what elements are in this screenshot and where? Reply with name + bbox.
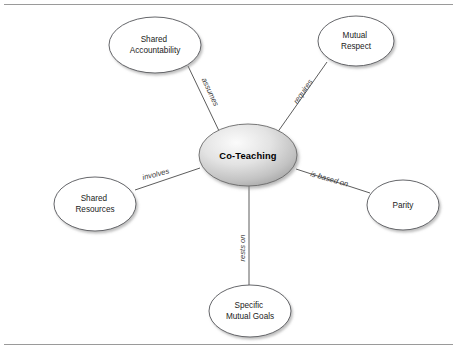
node-shared-resources[interactable]: Shared Resources [54, 177, 136, 231]
edge-label-is-based-on: is based on [309, 169, 349, 188]
edge-label-assumes: assumes [200, 76, 221, 108]
node-parity[interactable]: Parity [367, 180, 439, 230]
node-specific-mutual-goals[interactable]: Specific Mutual Goals [209, 285, 291, 337]
edge-label-requires: requires [291, 78, 314, 106]
node-specific-mutual-goals-ellipse[interactable] [209, 285, 291, 337]
concept-map-diagram: Shared Accountability Mutual Respect Par… [0, 0, 457, 352]
node-shared-accountability-ellipse[interactable] [109, 17, 201, 73]
node-mutual-respect[interactable]: Mutual Respect [318, 16, 394, 66]
edge-label-rests-on: rests on [238, 234, 247, 261]
node-parity-label: Parity [393, 201, 415, 210]
concept-map-canvas: Shared Accountability Mutual Respect Par… [0, 0, 457, 352]
node-mutual-respect-ellipse[interactable] [318, 16, 394, 66]
center-node-co-teaching[interactable]: Co-Teaching [199, 124, 297, 186]
center-node-label: Co-Teaching [219, 151, 276, 161]
node-shared-resources-ellipse[interactable] [54, 177, 136, 231]
node-shared-accountability[interactable]: Shared Accountability [109, 17, 201, 73]
